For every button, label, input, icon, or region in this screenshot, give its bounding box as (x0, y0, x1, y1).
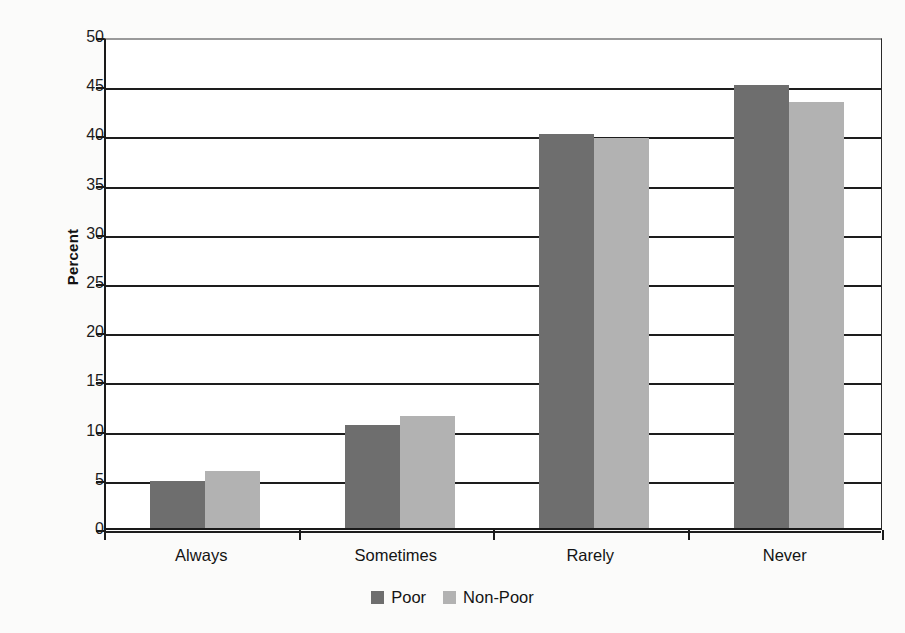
bar-sometimes-non-poor (400, 416, 455, 528)
y-tick-label-0: 0 (58, 520, 104, 538)
legend-item-non-poor: Non-Poor (443, 588, 534, 607)
x-label-rarely: Rarely (566, 546, 614, 565)
x-tick-mark-1 (299, 530, 301, 540)
legend-item-poor: Poor (371, 588, 426, 607)
y-tick-label-50: 50 (58, 28, 104, 46)
y-tick-label-25: 25 (58, 274, 104, 292)
x-axis-ticks (104, 530, 882, 542)
x-label-sometimes: Sometimes (354, 546, 437, 565)
bar-rarely-poor (539, 134, 594, 528)
bar-sometimes-poor (345, 425, 400, 528)
y-tick-label-10: 10 (58, 422, 104, 440)
legend-label: Poor (391, 588, 426, 607)
x-label-always: Always (175, 546, 227, 565)
x-tick-mark-4 (882, 530, 884, 540)
legend-label: Non-Poor (463, 588, 534, 607)
bar-always-poor (150, 481, 205, 528)
x-tick-mark-2 (493, 530, 495, 540)
x-axis-labels: AlwaysSometimesRarelyNever (104, 546, 882, 572)
square-swatch-light-icon (443, 591, 456, 604)
y-tick-label-30: 30 (58, 225, 104, 243)
y-axis-ticks: 05101520253035404550 (48, 38, 104, 530)
y-tick-label-20: 20 (58, 323, 104, 341)
bar-never-poor (734, 85, 789, 528)
bar-chart-figure: Percent 05101520253035404550 AlwaysSomet… (0, 0, 905, 633)
y-tick-label-5: 5 (58, 471, 104, 489)
square-swatch-dark-icon (371, 591, 384, 604)
chart-legend: PoorNon-Poor (0, 588, 905, 607)
bar-always-non-poor (205, 471, 260, 528)
x-tick-mark-3 (688, 530, 690, 540)
y-tick-label-40: 40 (58, 126, 104, 144)
bar-rarely-non-poor (594, 138, 649, 528)
gridline-50 (106, 39, 881, 40)
plot-area (104, 38, 882, 530)
bar-never-non-poor (789, 102, 844, 528)
y-tick-label-35: 35 (58, 176, 104, 194)
y-tick-label-15: 15 (58, 372, 104, 390)
x-label-never: Never (763, 546, 807, 565)
y-tick-label-45: 45 (58, 77, 104, 95)
x-tick-mark-0 (104, 530, 106, 540)
